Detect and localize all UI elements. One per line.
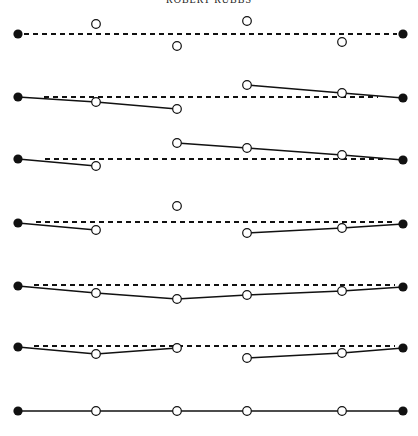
open-bead-marker: [92, 162, 101, 171]
row-2: [13, 81, 407, 114]
fixed-endpoint-marker: [13, 154, 22, 163]
fixed-endpoint-marker: [13, 342, 22, 351]
open-bead-marker: [243, 17, 252, 26]
open-bead-marker: [243, 354, 252, 363]
open-bead-marker: [92, 20, 101, 29]
open-bead-marker: [173, 407, 182, 416]
open-bead-marker: [92, 98, 101, 107]
fixed-endpoint-marker: [13, 218, 22, 227]
open-bead-marker: [338, 89, 347, 98]
open-bead-marker: [92, 289, 101, 298]
open-bead-marker: [338, 287, 347, 296]
fixed-endpoint-marker: [398, 282, 407, 291]
open-bead-marker: [173, 344, 182, 353]
open-bead-marker: [243, 229, 252, 238]
open-bead-marker: [92, 350, 101, 359]
open-bead-marker: [92, 407, 101, 416]
string-segment: [177, 143, 403, 160]
fixed-endpoint-marker: [398, 29, 407, 38]
fixed-endpoint-marker: [13, 406, 22, 415]
string-segment: [247, 348, 403, 358]
open-bead-marker: [173, 139, 182, 148]
open-bead-marker: [173, 295, 182, 304]
open-bead-marker: [243, 407, 252, 416]
row-5: [13, 281, 407, 303]
row-7: [13, 406, 407, 415]
open-bead-marker: [243, 81, 252, 90]
string-segment: [18, 159, 96, 166]
string-diagram: [0, 0, 418, 436]
fixed-endpoint-marker: [13, 29, 22, 38]
fixed-endpoint-marker: [398, 406, 407, 415]
row-6: [13, 342, 407, 362]
open-bead-marker: [338, 349, 347, 358]
fixed-endpoint-marker: [13, 92, 22, 101]
fixed-endpoint-marker: [398, 155, 407, 164]
open-bead-marker: [243, 144, 252, 153]
fixed-endpoint-marker: [398, 219, 407, 228]
open-bead-marker: [338, 151, 347, 160]
open-bead-marker: [173, 42, 182, 51]
string-segment: [247, 224, 403, 233]
open-bead-marker: [243, 291, 252, 300]
open-bead-marker: [92, 226, 101, 235]
fixed-endpoint-marker: [398, 93, 407, 102]
row-4: [13, 202, 407, 238]
fixed-endpoint-marker: [13, 281, 22, 290]
open-bead-marker: [173, 202, 182, 211]
row-3: [13, 139, 407, 171]
open-bead-marker: [338, 224, 347, 233]
row-1: [13, 17, 407, 51]
open-bead-marker: [173, 105, 182, 114]
string-segment: [18, 223, 96, 230]
open-bead-marker: [338, 407, 347, 416]
open-bead-marker: [338, 38, 347, 47]
fixed-endpoint-marker: [398, 343, 407, 352]
